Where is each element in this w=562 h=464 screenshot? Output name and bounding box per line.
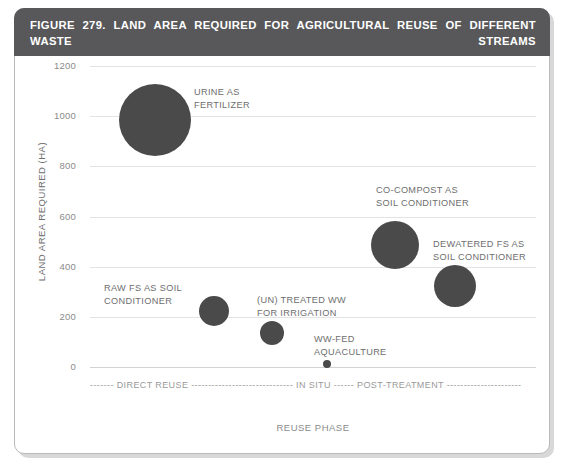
figure-title-superscript: -1 <box>209 68 216 77</box>
gridline <box>90 367 536 368</box>
figure-container: FIGURE 279. LAND AREA REQUIRED FOR AGRIC… <box>0 0 562 464</box>
data-point-label: URINE AS FERTILIZER <box>194 86 250 111</box>
y-axis-tick-label: 1000 <box>24 110 76 121</box>
gridline <box>90 217 536 218</box>
x-axis-label: REUSE PHASE <box>90 422 536 433</box>
y-axis-tick-label: 200 <box>24 311 76 322</box>
data-point-label: (UN) TREATED WW FOR IRRIGATION <box>257 294 346 319</box>
figure-title-line-2: GENERATED BY 100,000 PE YR-1. <box>30 65 536 84</box>
y-axis-tick-label: 600 <box>24 211 76 222</box>
data-point-bubble <box>371 221 419 269</box>
data-point-label: RAW FS AS SOIL CONDITIONER <box>104 282 182 307</box>
figure-title-bar: FIGURE 279. LAND AREA REQUIRED FOR AGRIC… <box>14 8 550 56</box>
gridline <box>90 267 536 268</box>
figure-title-line-2-text: GENERATED BY 100,000 PE YR <box>30 70 209 82</box>
y-axis-tick-label: 0 <box>24 361 76 372</box>
figure-title-line-1: FIGURE 279. LAND AREA REQUIRED FOR AGRIC… <box>30 17 536 65</box>
phase-annotation: ------- DIRECT REUSE -------------------… <box>90 380 536 394</box>
data-point-bubble <box>119 84 191 156</box>
data-point-label: DEWATERED FS AS SOIL CONDITIONER <box>433 238 526 263</box>
gridline <box>90 166 536 167</box>
data-point-bubble <box>434 265 476 307</box>
data-point-bubble <box>260 321 284 345</box>
data-point-label: WW-FED AQUACULTURE <box>314 333 387 358</box>
figure-title-period: . <box>216 70 220 82</box>
y-axis-tick-label: 400 <box>24 261 76 272</box>
data-point-bubble <box>199 296 229 326</box>
plot-area: LAND AREA REQUIRED (HA) 1200100080060040… <box>14 56 550 454</box>
y-axis-tick-label: 800 <box>24 160 76 171</box>
data-point-label: CO-COMPOST AS SOIL CONDITIONER <box>376 184 469 209</box>
